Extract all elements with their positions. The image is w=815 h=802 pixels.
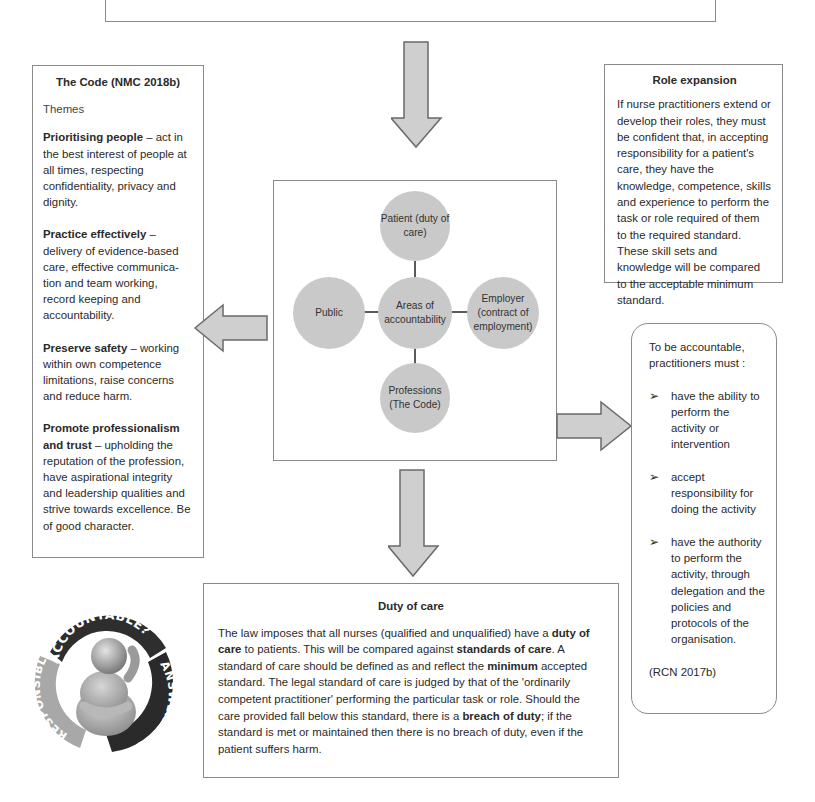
theme-text: – upholding the reputation of the profes… <box>43 439 191 532</box>
theme-heading: Prioritising people <box>43 131 143 143</box>
duty-of-care-text: The law imposes that all nurses (qualifi… <box>218 625 604 758</box>
role-expansion-box: Role expansion If nurse practitioners ex… <box>604 64 783 283</box>
arrow-left-icon <box>193 303 269 353</box>
arrow-right-icon <box>555 400 633 452</box>
theme-item: Promote professionalism and trust – upho… <box>43 420 193 533</box>
circle-label: Professions (The Code) <box>380 384 450 412</box>
accountable-intro: To be accountable, practitioners must : <box>649 339 766 372</box>
duty-of-care-title: Duty of care <box>218 598 604 615</box>
arrowhead-bullet-icon: ➢ <box>649 534 671 648</box>
list-item: ➢ have the authority to perform the acti… <box>649 534 766 648</box>
role-expansion-title: Role expansion <box>617 72 772 88</box>
circle-label: Public <box>315 306 343 320</box>
text-segment: to patients. This will be compared again… <box>241 643 456 655</box>
list-item: ➢ have the ability to perform the activi… <box>649 388 766 453</box>
list-item-text: have the authority to perform the activi… <box>671 534 766 648</box>
theme-heading: Preserve safety <box>43 342 127 354</box>
circle-label: Patient (duty of care) <box>380 212 450 240</box>
text-segment: The law imposes that all nurses (qualifi… <box>218 627 552 639</box>
accountability-diagram: Patient (duty of care) Public Areas of a… <box>273 180 557 461</box>
list-item-text: have the ability to perform the activity… <box>671 388 766 453</box>
circle-professions: Professions (The Code) <box>380 363 450 433</box>
citation: (RCN 2017b) <box>649 664 766 680</box>
accountable-requirements-box: To be accountable, practitioners must : … <box>631 323 777 714</box>
theme-item: Preserve safety – working within own com… <box>43 340 193 405</box>
list-item-text: accept responsibility for doing the acti… <box>671 469 766 518</box>
text-segment-bold: standards of care <box>457 643 552 655</box>
role-expansion-text: If nurse practitioners extend or develop… <box>617 96 772 308</box>
circle-public: Public <box>293 277 365 349</box>
duty-of-care-box: Duty of care The law imposes that all nu… <box>203 583 619 778</box>
circle-label: Employer (contract of employment) <box>467 292 539 334</box>
theme-item: Prioritising people – act in the best in… <box>43 129 193 210</box>
text-segment-bold: minimum <box>487 660 538 672</box>
circle-patient: Patient (duty of care) <box>380 191 450 261</box>
circle-areas-of-accountability: Areas of accountability <box>378 277 452 349</box>
code-box-title: The Code (NMC 2018b) <box>43 74 193 90</box>
text-segment-bold: breach of duty <box>462 710 540 722</box>
list-item: ➢ accept responsibility for doing the ac… <box>649 469 766 518</box>
code-box: The Code (NMC 2018b) Themes Prioritising… <box>32 65 204 558</box>
accountable-responsible-answerable-badge: ACCOUNTABLE? RESPONSIBLE? ANSWERABLE? <box>28 594 183 760</box>
arrow-down-top-icon <box>391 40 451 150</box>
theme-text: – delivery of evidence-based care, effec… <box>43 228 179 321</box>
arrowhead-bullet-icon: ➢ <box>649 469 671 518</box>
theme-heading: Practice effectively <box>43 228 146 240</box>
arrow-down-bottom-icon <box>388 468 444 580</box>
arrowhead-bullet-icon: ➢ <box>649 388 671 453</box>
themes-label: Themes <box>43 101 193 117</box>
theme-item: Practice effectively – delivery of evide… <box>43 226 193 323</box>
circle-label: Areas of accountability <box>378 299 452 327</box>
circle-employer: Employer (contract of employment) <box>467 277 539 349</box>
top-box: failure to comply with this Code may lea… <box>105 0 716 22</box>
